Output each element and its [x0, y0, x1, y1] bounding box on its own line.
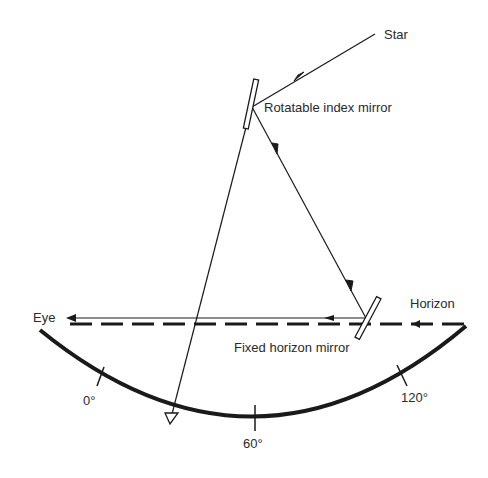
eye-ray-arrow-1: [66, 314, 76, 322]
reflected-ray-arrow-1: [272, 143, 278, 154]
diagram-canvas: [0, 0, 488, 478]
star-ray: [252, 34, 375, 107]
scale-label-120: 120°: [401, 391, 428, 404]
index-arm: [172, 104, 252, 414]
horizon-arrow: [412, 320, 420, 328]
star-label: Star: [384, 28, 408, 41]
scale-label-60: 60°: [243, 437, 263, 450]
horizon-label: Horizon: [410, 297, 455, 310]
horizon-mirror-label: Fixed horizon mirror: [234, 341, 350, 354]
index-pointer-arrow: [165, 413, 178, 424]
eye-label: Eye: [33, 311, 55, 324]
reflected-ray-arrow-2: [346, 280, 353, 291]
index-mirror-label: Rotatable index mirror: [264, 101, 392, 114]
sextant-diagram: Star Rotatable index mirror Horizon Fixe…: [0, 0, 488, 478]
scale-label-0: 0°: [83, 394, 95, 407]
eye-ray-arrow-2: [324, 315, 334, 321]
